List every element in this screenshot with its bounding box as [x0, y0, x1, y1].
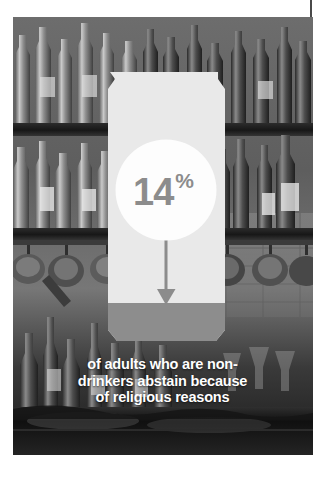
- caption-line-3: of religious reasons: [33, 389, 292, 406]
- caption-text: of adults who are non- drinkers abstain …: [33, 356, 292, 406]
- stat-unit: %: [175, 170, 194, 191]
- infographic-root: 14% of adults who are non- drinkers abst…: [0, 0, 325, 479]
- caption-line-2: drinkers abstain because: [33, 373, 292, 390]
- caption-line-1: of adults who are non-: [33, 356, 292, 373]
- stat-value: 14: [133, 173, 173, 211]
- stat-badge: 14%: [115, 140, 216, 241]
